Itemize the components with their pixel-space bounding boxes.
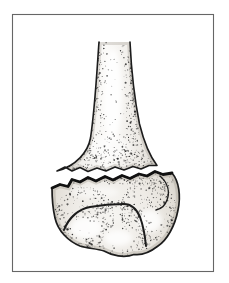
- bone-illustration-figure: [0, 0, 229, 283]
- bone-illustration-svg: [0, 0, 229, 283]
- shaft-highlight: [104, 49, 122, 141]
- trochlea-highlight: [104, 230, 132, 246]
- page: [0, 0, 229, 283]
